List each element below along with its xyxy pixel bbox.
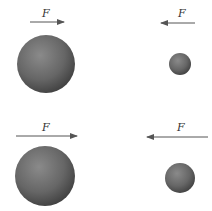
large-sphere <box>17 35 75 93</box>
panel-top-left: F <box>17 7 75 93</box>
force-diagram: F F F F <box>0 0 212 211</box>
panel-bottom-left: F <box>15 121 77 206</box>
panel-top-right: F <box>161 7 195 75</box>
force-label: F <box>176 121 185 134</box>
small-sphere <box>169 53 191 75</box>
force-label: F <box>41 121 50 134</box>
large-sphere <box>15 146 75 206</box>
force-label: F <box>41 7 50 20</box>
medium-sphere <box>165 163 195 193</box>
force-label: F <box>177 7 186 20</box>
panel-bottom-right: F <box>147 121 208 193</box>
